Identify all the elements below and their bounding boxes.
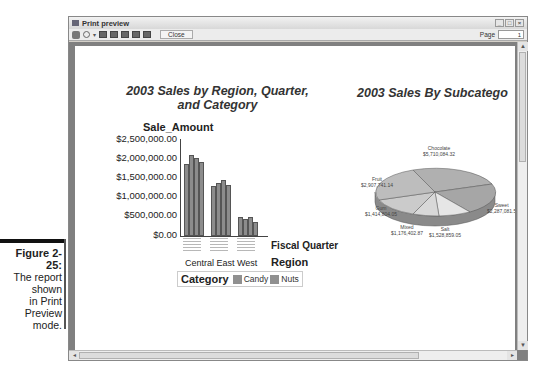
zoom-icon[interactable] xyxy=(83,31,90,38)
maximize-button[interactable]: □ xyxy=(505,19,514,27)
chart2-title: 2003 Sales By Subcatego xyxy=(357,86,508,100)
chart-legend: Category Candy Nuts xyxy=(177,271,303,287)
two-page-icon[interactable] xyxy=(110,31,118,38)
scroll-left-icon[interactable]: ◂ xyxy=(69,351,79,360)
y-tick: $1,000,000.00 xyxy=(75,190,177,201)
bar xyxy=(226,185,231,236)
pie-label-chocolate: Chocolate$5,710,084.32 xyxy=(423,146,455,157)
page-number-input[interactable]: 1 xyxy=(498,30,524,39)
pie-label-sweet: Sweet$2,287,081.5 xyxy=(487,203,515,214)
app-icon xyxy=(72,20,79,26)
report-page: 2003 Sales by Region, Quarter, and Categ… xyxy=(75,46,515,350)
scroll-up-icon[interactable]: ▲ xyxy=(518,42,528,51)
vertical-scrollbar[interactable]: ▲ ▼ xyxy=(517,42,527,350)
vertical-scroll-thumb[interactable] xyxy=(519,52,526,162)
pie-label-mixed: Mixed$1,176,402.87 xyxy=(391,225,423,236)
legend-title: Category xyxy=(181,273,229,285)
bar-group xyxy=(180,139,270,236)
horizontal-scroll-thumb[interactable] xyxy=(79,352,419,359)
quarter-labels xyxy=(237,237,255,251)
caption-line: The report xyxy=(0,271,62,283)
preview-viewport: 2003 Sales by Region, Quarter, and Categ… xyxy=(69,42,527,360)
chart1-title: 2003 Sales by Region, Quarter, and Categ… xyxy=(115,84,320,112)
window-title: Print preview xyxy=(82,19,495,28)
toolbar: ▾ Close Page 1 xyxy=(69,29,527,41)
pie-chart xyxy=(365,154,515,234)
y-tick: $0.00 xyxy=(75,229,177,240)
pie-label-salt: Salt$1,528,859.05 xyxy=(429,227,461,238)
pie-label-gum: Gum$1,414,804.05 xyxy=(365,206,397,217)
caption-line: Preview xyxy=(0,307,62,319)
y-tick: $2,500,000.00 xyxy=(75,133,177,144)
three-page-icon[interactable] xyxy=(121,31,129,38)
title-bar[interactable]: Print preview _ □ × xyxy=(69,17,527,29)
y-tick: $500,000.00 xyxy=(75,209,177,220)
caption-line: shown xyxy=(0,283,62,295)
four-page-icon[interactable] xyxy=(132,31,140,38)
pie-label-fruit: Fruit$2,907,741.14 xyxy=(361,177,393,188)
y-axis-label: Sale_Amount xyxy=(143,121,213,133)
one-page-icon[interactable] xyxy=(99,31,107,38)
bar xyxy=(199,162,204,236)
caption-title: Figure 2-25: xyxy=(0,247,62,271)
legend-swatch-nuts xyxy=(270,275,279,284)
six-page-icon[interactable] xyxy=(143,31,151,38)
caption-line: mode. xyxy=(0,319,62,331)
print-icon[interactable] xyxy=(72,31,80,39)
legend-swatch-candy xyxy=(233,275,242,284)
chart1-title-line: and Category xyxy=(115,98,320,112)
caption-line: in Print xyxy=(0,295,62,307)
close-preview-button[interactable]: Close xyxy=(160,30,193,39)
scroll-down-icon[interactable]: ▼ xyxy=(518,341,528,350)
legend-item-candy: Candy xyxy=(244,274,269,284)
caption-divider xyxy=(64,239,66,329)
close-window-button[interactable]: × xyxy=(515,19,524,27)
minimize-button[interactable]: _ xyxy=(495,19,504,27)
quarter-labels xyxy=(183,237,201,251)
horizontal-scrollbar[interactable]: ◂ ▸ xyxy=(69,350,517,360)
fiscal-quarter-label: Fiscal Quarter xyxy=(271,240,338,251)
page-label: Page xyxy=(480,31,495,38)
zoom-dropdown-arrow-icon[interactable]: ▾ xyxy=(93,31,96,38)
chart1-title-line: 2003 Sales by Region, Quarter, xyxy=(115,84,320,98)
scroll-right-icon[interactable]: ▸ xyxy=(507,351,517,360)
legend-item-nuts: Nuts xyxy=(281,274,298,284)
y-tick: $1,500,000.00 xyxy=(75,171,177,182)
quarter-labels xyxy=(210,237,228,251)
bar xyxy=(253,222,258,236)
region-tick-labels: Central East West xyxy=(185,258,257,268)
y-tick: $2,000,000.00 xyxy=(75,152,177,163)
figure-caption: Figure 2-25: The report shown in Print P… xyxy=(0,241,64,331)
region-label: Region xyxy=(271,256,308,268)
print-preview-window: Print preview _ □ × ▾ Close Page 1 2003 … xyxy=(68,16,528,361)
